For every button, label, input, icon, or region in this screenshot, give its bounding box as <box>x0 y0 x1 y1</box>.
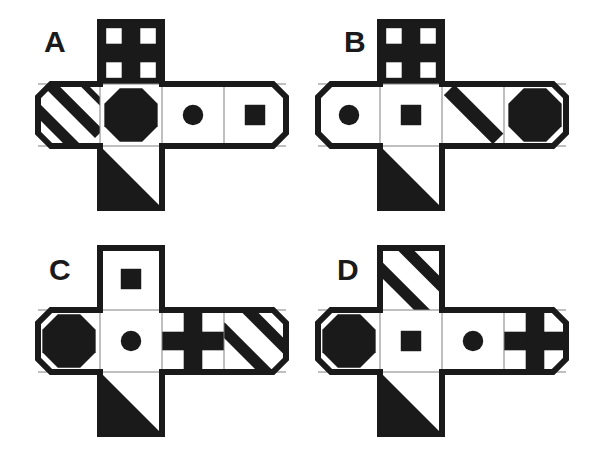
panel-top-cross <box>100 22 162 84</box>
cube-net-figure-b[interactable]: B <box>300 0 599 225</box>
panel-right2-octagon <box>508 88 561 141</box>
cube-net-figure-d[interactable]: D <box>300 226 599 451</box>
panel-center-octagon <box>104 88 157 141</box>
panel-left-octagon <box>322 314 375 367</box>
net-drawing-d <box>300 226 599 451</box>
panel-left-octagon <box>42 314 95 367</box>
panel-right1-circle <box>463 331 483 351</box>
cube-net-figure-c[interactable]: C <box>0 226 299 451</box>
panel-center-square <box>401 105 421 125</box>
panel-top-cross <box>380 22 442 84</box>
net-drawing-c <box>0 226 299 451</box>
panel-center-square <box>401 331 421 351</box>
panel-center-circle <box>121 331 141 351</box>
cube-net-figure-a[interactable]: A <box>0 0 299 225</box>
net-drawing-a <box>0 0 299 225</box>
panel-right1-circle <box>183 105 203 125</box>
panel-left-circle <box>339 105 359 125</box>
figure-sheet: ABCD <box>0 0 599 451</box>
net-drawing-b <box>300 0 599 225</box>
panel-top-square <box>121 269 141 289</box>
panel-right2-square <box>245 105 265 125</box>
